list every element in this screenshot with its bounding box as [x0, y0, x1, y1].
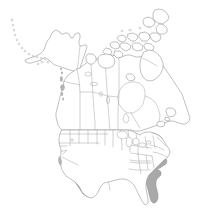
great-slave-lake	[90, 82, 97, 85]
great-salt-lake	[71, 139, 74, 141]
banks-island	[86, 54, 96, 64]
lake-michigan	[126, 137, 132, 147]
distribution-map-figure	[0, 0, 209, 212]
bc-coast-speck-1	[61, 92, 63, 96]
great-bear-lake	[85, 72, 91, 76]
bc-coast-speck-3	[61, 72, 63, 75]
bc-coast-speck-2	[62, 97, 64, 100]
lake-ontario	[146, 141, 151, 144]
nova-scotia	[157, 121, 165, 127]
newfoundland-island	[166, 108, 176, 117]
victoria-island	[98, 54, 115, 68]
north-america-map-svg	[0, 0, 209, 212]
bc-coast-speck-4	[60, 68, 62, 70]
